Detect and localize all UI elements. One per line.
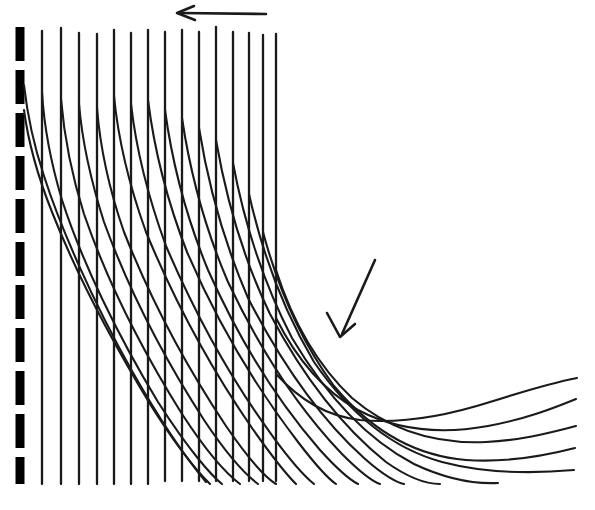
flow-visualization-figure xyxy=(0,0,595,510)
freestream-direction-arrow-shaft xyxy=(180,13,266,14)
flow-diagram-canvas xyxy=(0,0,595,510)
figure-background xyxy=(0,0,595,510)
